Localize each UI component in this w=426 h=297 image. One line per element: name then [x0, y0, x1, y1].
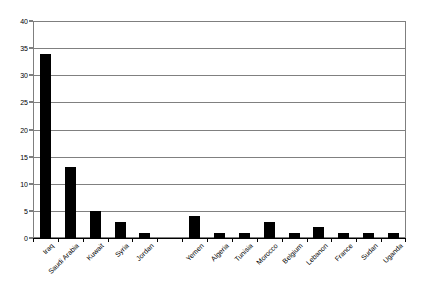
bar — [90, 211, 101, 238]
x-axis-tick-label: Algeria — [209, 242, 229, 262]
x-axis-tick-label: Morocco — [255, 242, 279, 266]
x-axis-tick-label: Uganda — [381, 242, 403, 264]
x-axis-tick-label: Tunisia — [234, 242, 255, 263]
y-axis-tick-label: 15 — [20, 153, 28, 160]
bar — [115, 222, 126, 238]
bar — [40, 54, 51, 238]
y-axis-tick-label: 30 — [20, 72, 28, 79]
x-axis-tick-label: France — [333, 242, 353, 262]
y-axis-tick-label: 35 — [20, 45, 28, 52]
y-axis-tick-label: 20 — [20, 126, 28, 133]
bar-chart: 0510152025303540 IraqSaudi ArabiaKuwaitS… — [0, 0, 426, 297]
x-axis-tick-label: Jordan — [135, 242, 155, 262]
bar — [65, 167, 76, 238]
x-axis-tick-label: Yemen — [184, 242, 204, 262]
x-axis-tick-label: Lebanon — [305, 242, 329, 266]
x-axis-tick-label: Belgium — [281, 242, 304, 265]
x-axis-tick-label: Sudan — [359, 242, 378, 261]
x-axis-tick-label: Iraq — [42, 242, 55, 255]
y-axis: 0510152025303540 — [0, 21, 33, 238]
bar — [189, 216, 200, 238]
y-axis-tick-label: 25 — [20, 99, 28, 106]
x-axis-tick-label: Syria — [114, 242, 130, 258]
y-axis-tick-label: 10 — [20, 180, 28, 187]
bars-layer — [33, 21, 406, 238]
y-axis-tick-label: 40 — [20, 18, 28, 25]
y-axis-tick-label: 0 — [24, 235, 28, 242]
x-axis-tick-label: Kuwait — [85, 242, 105, 262]
bar — [313, 227, 324, 238]
bar — [264, 222, 275, 238]
x-axis-labels: IraqSaudi ArabiaKuwaitSyriaJordanYemenAl… — [33, 242, 406, 297]
y-axis-tick-label: 5 — [24, 207, 28, 214]
